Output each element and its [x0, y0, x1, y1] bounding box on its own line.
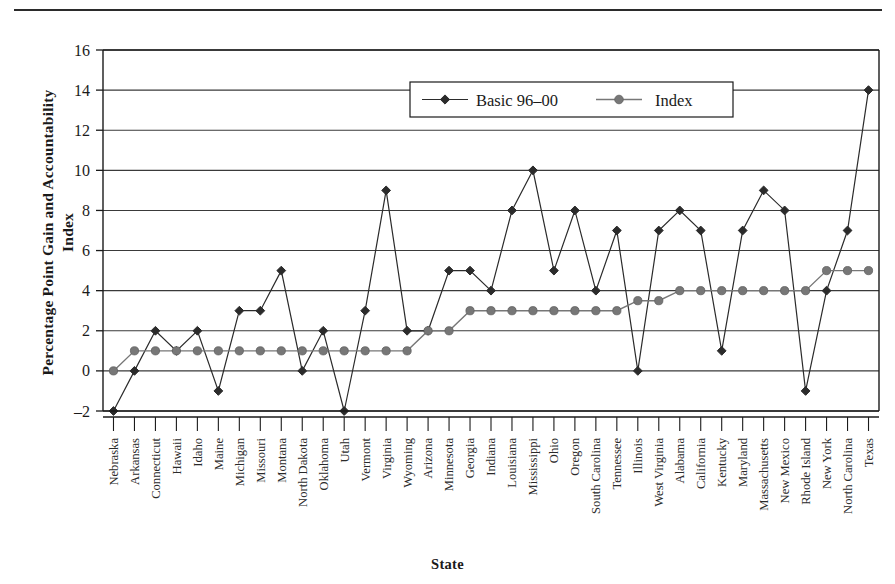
data-point-marker: [801, 287, 809, 295]
data-point-marker: [760, 287, 768, 295]
x-axis-tick-label: Ohio: [547, 438, 561, 463]
x-axis-tick-label: Hawaii: [170, 438, 184, 475]
x-axis-tick-label: California: [694, 438, 708, 489]
x-axis-tick-label: Massachusetts: [757, 438, 771, 511]
data-point-marker: [570, 206, 579, 215]
data-point-marker: [193, 347, 201, 355]
data-point-marker: [382, 347, 390, 355]
legend-marker-index: [615, 95, 624, 104]
data-point-marker: [655, 297, 663, 305]
data-point-marker: [843, 267, 851, 275]
data-point-marker: [822, 286, 831, 295]
legend-label-index: Index: [655, 91, 693, 110]
x-axis-tick-label: Alabama: [673, 438, 687, 484]
chart-legend[interactable]: Basic 96–00Index: [410, 82, 733, 117]
data-point-marker: [235, 306, 244, 315]
y-axis-ticks-group: –20246810121416: [73, 42, 103, 420]
x-axis-tick-label: Kentucky: [715, 437, 729, 487]
data-point-marker: [508, 307, 516, 315]
x-axis-tick-label: New York: [820, 437, 834, 489]
data-point-marker: [214, 347, 222, 355]
x-axis-tick-label: Rhode Island: [799, 437, 813, 505]
data-point-marker: [612, 226, 621, 235]
data-point-marker: [801, 387, 810, 396]
data-point-marker: [529, 307, 537, 315]
data-point-marker: [424, 327, 432, 335]
data-point-marker: [864, 267, 872, 275]
y-axis-tick-label: –2: [73, 403, 90, 420]
x-axis-tick-label: Minnesota: [442, 438, 456, 492]
data-point-marker: [298, 366, 307, 375]
data-point-marker: [466, 307, 474, 315]
data-point-marker: [717, 346, 726, 355]
data-point-marker: [613, 307, 621, 315]
data-point-marker: [361, 347, 369, 355]
x-axis-tick-label: Georgia: [463, 438, 477, 479]
data-point-marker: [571, 307, 579, 315]
data-point-marker: [592, 307, 600, 315]
y-axis-tick-label: 6: [82, 242, 90, 259]
data-point-marker: [550, 307, 558, 315]
x-axis-tick-label: Utah: [338, 437, 352, 462]
x-axis-tick-label: New Mexico: [778, 438, 792, 503]
data-point-marker: [361, 306, 370, 315]
data-point-marker: [550, 266, 559, 275]
data-point-marker: [130, 366, 139, 375]
y-axis-tick-label: 10: [74, 162, 90, 179]
data-point-marker: [403, 326, 412, 335]
x-axis-tick-label: Wyoming: [401, 437, 415, 487]
data-point-marker: [508, 206, 517, 215]
x-axis-tick-label: Illinois: [631, 438, 645, 474]
x-axis-tick-label: Mississippi: [526, 438, 540, 496]
data-point-marker: [634, 297, 642, 305]
x-axis-tick-label: North Carolina: [841, 438, 855, 514]
data-point-marker: [697, 287, 705, 295]
x-axis-tick-label: Missouri: [254, 438, 268, 483]
x-axis-labels-group: NebraskaArkansasConnecticutHawaiiIdahoMa…: [107, 437, 876, 514]
data-point-marker: [781, 287, 789, 295]
y-axis-tick-label: 16: [74, 42, 90, 59]
data-point-marker: [718, 287, 726, 295]
data-point-marker: [739, 287, 747, 295]
legend-label-basic: Basic 96–00: [476, 91, 558, 110]
x-axis-tick-label: Michigan: [233, 437, 247, 486]
data-point-marker: [277, 266, 286, 275]
y-axis-tick-label: 12: [74, 122, 90, 139]
y-axis-tick-label: 0: [82, 362, 90, 379]
data-point-marker: [319, 347, 327, 355]
x-axis-tick-label: Tennessee: [610, 438, 624, 490]
y-axis-tick-label: 8: [82, 202, 90, 219]
line-chart-plot: –20246810121416 NebraskaArkansasConnecti…: [0, 0, 895, 584]
data-point-marker: [340, 347, 348, 355]
x-axis-tick-label: Connecticut: [149, 438, 163, 499]
x-axis-tick-label: Virginia: [380, 438, 394, 479]
data-point-marker: [172, 347, 180, 355]
y-axis-tick-label: 2: [82, 322, 90, 339]
data-point-marker: [403, 347, 411, 355]
data-point-marker: [822, 267, 830, 275]
x-axis-tick-label: Oregon: [568, 437, 582, 475]
data-point-marker: [235, 347, 243, 355]
data-point-marker: [382, 186, 391, 195]
data-point-marker: [151, 347, 159, 355]
data-point-marker: [676, 287, 684, 295]
data-point-marker: [843, 226, 852, 235]
x-axis-tick-label: Oklahoma: [317, 438, 331, 491]
data-point-marker: [277, 347, 285, 355]
x-axis-tick-label: Indiana: [484, 438, 498, 476]
x-axis-tick-label: Texas: [862, 438, 876, 467]
x-axis-tick-label: Arkansas: [128, 438, 142, 485]
data-point-marker: [487, 307, 495, 315]
data-point-marker: [864, 86, 873, 95]
x-axis-tick-label: West Virginia: [652, 438, 666, 507]
data-point-marker: [529, 166, 538, 175]
data-point-marker: [633, 366, 642, 375]
data-point-marker: [214, 387, 223, 396]
y-axis-tick-label: 4: [82, 282, 90, 299]
chart-figure: Percentage Point Gain and Accountability…: [0, 0, 895, 584]
y-axis-tick-label: 14: [74, 82, 90, 99]
x-axis-tick-label: Vermont: [359, 438, 373, 482]
data-point-marker: [319, 326, 328, 335]
data-point-marker: [445, 327, 453, 335]
data-point-marker: [130, 347, 138, 355]
